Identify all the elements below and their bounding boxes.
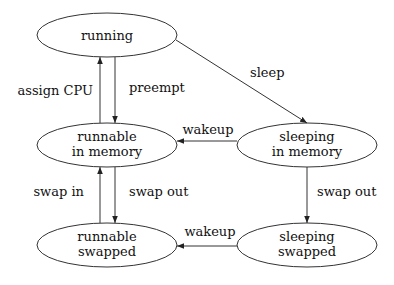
node-runnable-swapped: runnable swapped xyxy=(37,223,177,267)
edge-swap-in: swap in xyxy=(33,167,100,223)
edge-swap-out-runnable-label: swap out xyxy=(129,184,189,199)
edge-assign-cpu-label: assign CPU xyxy=(18,83,94,98)
arrow-diagonal-icon xyxy=(176,40,307,123)
edge-wakeup-swapped: wakeup xyxy=(177,224,237,246)
node-runnable-in-memory-line1: runnable xyxy=(77,129,137,144)
state-diagram: running runnable in memory sleeping in m… xyxy=(0,0,394,285)
node-sleeping-in-memory-line1: sleeping xyxy=(279,129,334,144)
node-runnable-in-memory-line2: in memory xyxy=(72,144,143,159)
node-sleeping-swapped: sleeping swapped xyxy=(237,223,377,267)
edge-assign-cpu: assign CPU xyxy=(18,57,101,123)
edge-sleep: sleep xyxy=(176,40,307,123)
node-running: running xyxy=(37,13,177,57)
node-sleeping-swapped-line1: sleeping xyxy=(279,229,334,244)
edge-wakeup-swapped-label: wakeup xyxy=(184,224,235,239)
edge-preempt: preempt xyxy=(115,57,186,123)
node-sleeping-swapped-line2: swapped xyxy=(278,244,336,259)
edge-swap-out-sleeping-label: swap out xyxy=(317,184,377,199)
node-running-label: running xyxy=(81,28,133,43)
node-sleeping-in-memory-line2: in memory xyxy=(272,144,343,159)
edge-swap-out-sleeping: swap out xyxy=(307,167,377,223)
edge-swap-out-runnable: swap out xyxy=(115,167,189,223)
node-runnable-swapped-line1: runnable xyxy=(77,229,137,244)
edge-wakeup-memory: wakeup xyxy=(177,122,237,141)
node-runnable-in-memory: runnable in memory xyxy=(37,123,177,167)
node-runnable-swapped-line2: swapped xyxy=(78,244,136,259)
edge-sleep-label: sleep xyxy=(250,65,285,80)
edge-swap-in-label: swap in xyxy=(33,184,84,199)
node-sleeping-in-memory: sleeping in memory xyxy=(237,123,377,167)
edge-wakeup-memory-label: wakeup xyxy=(182,122,233,137)
edge-preempt-label: preempt xyxy=(129,80,186,95)
